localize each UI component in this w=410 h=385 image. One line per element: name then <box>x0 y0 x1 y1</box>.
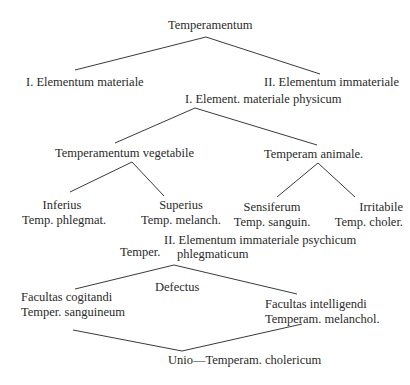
node-irritabile: Irritabile Temp. choler. <box>325 200 403 230</box>
node-sensiferum: Sensiferum Temp. sanguin. <box>232 200 312 230</box>
superius-temperament: Temp. melanch. <box>136 213 226 228</box>
node-facultas-intelligendi: Facultas intelligendi Temperam. melancho… <box>265 297 380 327</box>
superius-label: Superius <box>136 198 226 213</box>
node-temperamentum: Temperamentum <box>168 18 253 33</box>
node-elementum-materiale: I. Elementum materiale <box>26 75 144 90</box>
inferius-label: Inferius <box>22 198 102 213</box>
sensiferum-label: Sensiferum <box>232 200 312 215</box>
temper-prefix: Temper. <box>120 245 160 260</box>
connector-lines <box>0 0 410 385</box>
cogitandi-temperament: Temper. sanguineum <box>21 305 125 320</box>
cogitandi-label: Facultas cogitandi <box>21 290 125 305</box>
sensiferum-temperament: Temp. sanguin. <box>232 215 312 230</box>
node-defectus: Defectus <box>155 280 199 295</box>
intelligendi-temperament: Temperam. melanchol. <box>265 312 380 327</box>
node-temperam-animale: Temperam animale. <box>264 147 363 162</box>
node-inferius: Inferius Temp. phlegmat. <box>22 198 102 228</box>
node-superius: Superius Temp. melanch. <box>136 198 226 228</box>
irritabile-temperament: Temp. choler. <box>325 215 403 230</box>
intelligendi-label: Facultas intelligendi <box>265 297 380 312</box>
node-temperamentum-vegetabile: Temperamentum vegetabile <box>55 146 194 161</box>
node-unio: Unio—Temperam. cholericum <box>168 353 321 368</box>
temper-phlegmaticum: phlegmaticum <box>177 247 249 262</box>
node-immateriale-psychicum: II. Elementum immateriale psychicum <box>164 233 356 248</box>
node-facultas-cogitandi: Facultas cogitandi Temper. sanguineum <box>21 290 125 320</box>
inferius-temperament: Temp. phlegmat. <box>22 213 102 228</box>
irritabile-label: Irritabile <box>325 200 403 215</box>
node-elementum-immateriale: II. Elementum immateriale <box>264 75 399 90</box>
node-materiale-physicum: I. Element. materiale physicum <box>185 92 342 107</box>
